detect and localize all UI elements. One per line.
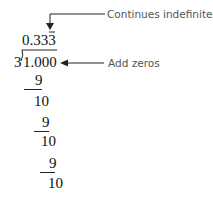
remainder-3: 10 bbox=[48, 176, 63, 191]
repeat-arrow-head-icon bbox=[46, 23, 54, 30]
remainder-2: 10 bbox=[41, 134, 56, 149]
repeat-arrow-line bbox=[50, 14, 105, 24]
arrows bbox=[0, 0, 213, 197]
subtract-rule-1 bbox=[24, 89, 42, 90]
subtract-rule-3 bbox=[40, 172, 55, 173]
repeat-annotation: Continues indefinitely bbox=[107, 8, 213, 20]
subtract-rule-2 bbox=[34, 131, 49, 132]
zeros-arrow-head-icon bbox=[60, 60, 68, 67]
quotient: 0.333 bbox=[22, 33, 56, 48]
subtract-2: 9 bbox=[42, 115, 50, 130]
remainder-1: 10 bbox=[34, 94, 49, 109]
divisor: 3 bbox=[14, 55, 22, 70]
dividend: 1.000 bbox=[23, 55, 57, 70]
subtract-3: 9 bbox=[49, 156, 57, 171]
subtract-1: 9 bbox=[35, 73, 43, 88]
zeros-annotation: Add zeros bbox=[108, 57, 160, 69]
